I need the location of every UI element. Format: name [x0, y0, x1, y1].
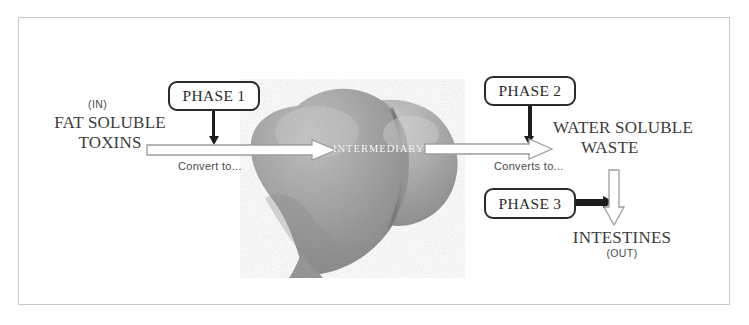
phase-2-box[interactable]: PHASE 2 [484, 76, 576, 106]
convert-flow-arrow-icon [146, 139, 338, 165]
phase-1-connector-stem [212, 111, 215, 139]
output-waste-line1: WATER SOLUBLE [553, 118, 713, 138]
converts-to-label: Converts to... [494, 160, 564, 172]
input-marker-label: (IN) [88, 98, 107, 110]
excretion-flow-arrow-icon [602, 169, 626, 231]
output-waste-label: WATER SOLUBLE WASTE [553, 118, 713, 158]
phase-3-box[interactable]: PHASE 3 [484, 188, 576, 219]
output-destination-label: INTESTINES [556, 228, 688, 248]
phase-1-box[interactable]: PHASE 1 [168, 81, 260, 111]
intermediary-label: INTERMEDIARY [333, 143, 424, 154]
output-waste-line2: WASTE [581, 138, 713, 158]
phase-2-connector-stem [528, 106, 532, 140]
output-marker-label: (OUT) [556, 247, 688, 259]
convert-to-label: Convert to... [178, 160, 242, 172]
diagram-canvas: (IN) FAT SOLUBLE TOXINS PHASE 1 Convert … [0, 0, 749, 325]
input-substance-line1: FAT SOLUBLE [36, 113, 184, 133]
